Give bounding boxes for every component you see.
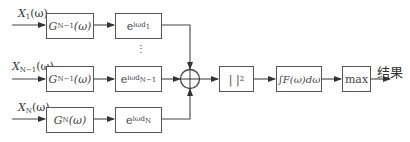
- ellipsis-vertical: ⋮: [136, 46, 146, 51]
- integral-box: ∫F(ω)dω: [276, 66, 322, 92]
- output-label: 结果: [377, 62, 403, 81]
- magnitude-squared-box: | |2: [219, 66, 254, 92]
- max-box: max: [342, 66, 371, 92]
- filter-box-n: GN(ω): [46, 107, 94, 133]
- phase-shift-box-1: eiωd1: [115, 13, 162, 39]
- filter-box-1: GN−1(ω): [46, 13, 94, 39]
- phase-shift-box-n: eiωdN: [115, 107, 162, 133]
- filter-box-n-minus-1: GN−1(ω): [46, 66, 94, 92]
- input-label-1: X1(ω): [18, 8, 48, 21]
- input-label-n: XN(ω): [18, 102, 50, 115]
- phase-shift-box-n-minus-1: eiωdN−1: [115, 66, 162, 92]
